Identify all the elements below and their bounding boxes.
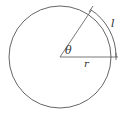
angle-label: θ: [65, 45, 72, 56]
radius-label: r: [84, 59, 89, 69]
circle-diagram: [0, 0, 122, 116]
arc-length-label: l: [111, 18, 115, 29]
diagram-canvas: θ r l: [0, 0, 122, 116]
